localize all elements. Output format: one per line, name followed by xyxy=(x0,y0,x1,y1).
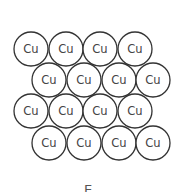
atom-label: Cu xyxy=(76,136,91,150)
atom-r2-c1: Cu xyxy=(32,63,66,97)
atom-label: Cu xyxy=(41,73,56,87)
atom-r1-c4: Cu xyxy=(118,32,152,66)
atom-r2-c4: Cu xyxy=(136,63,170,97)
atom-r3-c4: Cu xyxy=(118,94,152,128)
diagram-caption: E xyxy=(84,183,92,192)
atom-r3-c1: Cu xyxy=(14,94,48,128)
atom-r3-c3: Cu xyxy=(83,94,117,128)
atom-r2-c3: Cu xyxy=(102,63,136,97)
atom-r1-c3: Cu xyxy=(83,32,117,66)
atom-label: Cu xyxy=(23,42,38,56)
atom-label: Cu xyxy=(23,104,38,118)
atom-r4-c1: Cu xyxy=(32,126,66,160)
atom-r4-c3: Cu xyxy=(102,126,136,160)
atom-r1-c2: Cu xyxy=(49,32,83,66)
atom-label: Cu xyxy=(127,42,142,56)
atom-label: Cu xyxy=(111,73,126,87)
atom-label: Cu xyxy=(58,42,73,56)
atom-label: Cu xyxy=(145,136,160,150)
atom-label: Cu xyxy=(76,73,91,87)
copper-lattice-diagram: CuCuCuCuCuCuCuCuCuCuCuCuCuCuCuCu xyxy=(0,0,189,192)
atom-r2-c2: Cu xyxy=(67,63,101,97)
atom-label: Cu xyxy=(41,136,56,150)
atom-label: Cu xyxy=(127,104,142,118)
atom-r4-c2: Cu xyxy=(67,126,101,160)
atom-label: Cu xyxy=(92,42,107,56)
atom-r4-c4: Cu xyxy=(136,126,170,160)
atom-label: Cu xyxy=(58,104,73,118)
atom-label: Cu xyxy=(92,104,107,118)
atom-r3-c2: Cu xyxy=(49,94,83,128)
atom-label: Cu xyxy=(145,73,160,87)
atom-r1-c1: Cu xyxy=(14,32,48,66)
atom-label: Cu xyxy=(111,136,126,150)
